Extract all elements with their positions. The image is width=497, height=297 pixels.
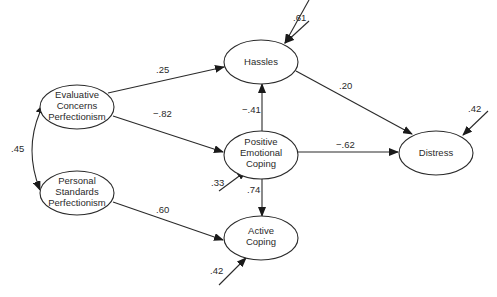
coef-psp-active: .60	[156, 204, 169, 215]
edge-ecp-pec	[113, 116, 223, 152]
node-label-line: Coping	[246, 236, 276, 247]
coef-ecp-hassles: .25	[156, 64, 169, 75]
node-label-line: Concerns	[57, 100, 98, 111]
coef-correlation: .45	[11, 143, 24, 154]
node-label-line: Active	[248, 225, 274, 236]
edge-hassles-distress	[296, 71, 412, 134]
node-label-line: Personal	[58, 175, 96, 186]
node-label-line: Evaluative	[55, 89, 99, 100]
node-label-line: Standards	[55, 186, 99, 197]
coef-ecp-pec: −.82	[153, 108, 172, 119]
residual-label-pec: .33	[211, 177, 224, 188]
node-label-line: Emotional	[240, 147, 282, 158]
residual-label-distress: .42	[468, 103, 481, 114]
node-label-line: Distress	[419, 147, 454, 158]
node-hassles: Hassles	[224, 40, 298, 84]
path-diagram: Evaluative Concerns Perfectionism Person…	[0, 0, 497, 297]
node-evaluative-concerns-perfectionism: Evaluative Concerns Perfectionism	[40, 85, 114, 129]
coef-hassles-distress: .20	[339, 80, 352, 91]
residual-distress	[463, 111, 488, 135]
node-positive-emotional-coping: Positive Emotional Coping	[224, 131, 298, 179]
node-label-line: Positive	[244, 136, 277, 147]
node-label-line: Hassles	[244, 56, 278, 67]
residual-label-active: .42	[210, 265, 223, 276]
correlation-ecp-psp	[32, 112, 40, 190]
coef-pec-hassles: −.41	[242, 104, 261, 115]
node-active-coping: Active Coping	[224, 216, 298, 260]
node-label-line: Coping	[246, 158, 276, 169]
coef-pec-distress: −.62	[336, 139, 355, 150]
node-distress: Distress	[399, 131, 473, 175]
node-personal-standards-perfectionism: Personal Standards Perfectionism	[40, 171, 114, 215]
residual-label-hassles: .61	[293, 12, 306, 23]
node-label-line: Perfectionism	[48, 197, 106, 208]
node-label-line: Perfectionism	[48, 111, 106, 122]
coef-pec-active: .74	[247, 184, 260, 195]
